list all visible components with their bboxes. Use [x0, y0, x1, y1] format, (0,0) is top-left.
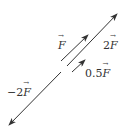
label-neg2f-coef: −2 [7, 86, 23, 99]
label-neg2f: −2F [7, 87, 31, 98]
label-f-symbol: F [58, 40, 66, 51]
label-f: F [58, 40, 66, 51]
label-2f-coef: 2 [103, 39, 110, 52]
vector-arrows [0, 0, 132, 139]
label-2f: 2F [103, 40, 118, 51]
label-neg2f-symbol: F [23, 87, 31, 98]
label-2f-symbol: F [110, 40, 118, 51]
label-0.5f-coef: 0.5 [85, 67, 103, 80]
vector-0.5f-arrow [72, 60, 85, 72]
vector-diagram: F 2F 0.5F −2F [0, 0, 132, 139]
label-0.5f-symbol: F [103, 68, 111, 79]
label-0.5f: 0.5F [85, 68, 110, 79]
